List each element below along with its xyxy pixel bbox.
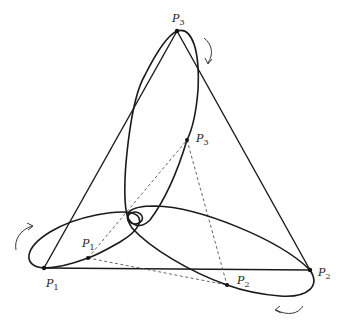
point-outer-p2 [308, 268, 312, 272]
point-inner-p3 [185, 138, 189, 142]
label-inner-p2: P2 [236, 274, 250, 289]
arrowhead-top [205, 58, 212, 64]
outer-triangle [44, 31, 310, 270]
label-outer-p1: P1 [45, 277, 59, 292]
rotation-arrow-left [16, 226, 32, 250]
point-outer-p3 [175, 29, 179, 33]
label-outer-p2: P2 [317, 266, 331, 281]
point-outer-p1 [42, 266, 46, 270]
label-inner-p3: P3 [195, 132, 209, 147]
edge-p3-p2 [177, 31, 310, 270]
edge-p1-p3 [44, 31, 177, 268]
label-outer-p3: P3 [171, 12, 185, 27]
vertex-labels: P3 P1 P2 P3 P1 P2 [45, 12, 331, 292]
edge-p1-p2 [44, 268, 310, 270]
ellipse-p2 [127, 206, 313, 296]
ellipse-curves [29, 30, 314, 296]
triangle-ellipse-diagram: P3 P1 P2 P3 P1 P2 [0, 0, 343, 330]
dashed-edge-p1-p2 [88, 258, 227, 285]
point-inner-p1 [86, 256, 90, 260]
label-inner-p1: P1 [81, 237, 95, 252]
dashed-edge-p1-p3 [88, 140, 187, 258]
point-inner-p2 [225, 283, 229, 287]
